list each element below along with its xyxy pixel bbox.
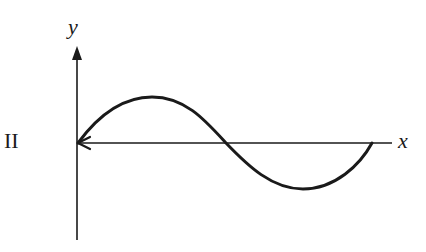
panel-label: II (4, 128, 19, 154)
y-axis-label: y (68, 14, 78, 40)
y-axis-arrow-icon (72, 46, 82, 60)
x-axis-label: x (398, 128, 408, 154)
wave-diagram: II y x (0, 0, 426, 252)
wave-svg (0, 0, 426, 252)
